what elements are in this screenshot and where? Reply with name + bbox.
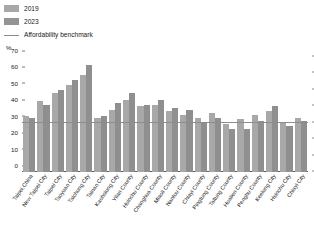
bar-group	[108, 57, 122, 172]
bar-2023	[115, 103, 121, 172]
y-axis-tick: 0	[15, 162, 22, 169]
bar-group	[22, 57, 36, 172]
bar-2023	[186, 110, 192, 172]
bar-2023	[272, 106, 278, 172]
bar-group	[265, 57, 279, 172]
chart-legend: 2019 2023 Affordability benchmark	[4, 3, 93, 42]
bar-2023	[258, 121, 264, 172]
bar-group	[222, 57, 236, 172]
legend-swatch-2019	[4, 5, 19, 12]
legend-item-benchmark: Affordability benchmark	[4, 29, 93, 40]
right-axis-tick-mark	[312, 88, 314, 89]
bar-2023	[286, 126, 292, 172]
plot-area: 010203040506070	[22, 57, 308, 172]
right-axis-tick-mark	[312, 171, 314, 172]
plot-inner: 010203040506070	[22, 57, 308, 172]
legend-item-2019: 2019	[4, 3, 93, 14]
bar-group	[51, 57, 65, 172]
bar-2023	[86, 65, 92, 172]
bar-group	[294, 57, 308, 172]
bar-2023	[172, 108, 178, 172]
bar-2023	[301, 121, 307, 172]
right-axis-tick-mark	[312, 72, 314, 73]
bar-group	[165, 57, 179, 172]
bar-2023	[244, 129, 250, 172]
right-axis-tick-mark	[312, 154, 314, 155]
y-axis-tick: 20	[11, 129, 22, 136]
bar-group	[251, 57, 265, 172]
right-axis-tick-mark	[312, 121, 314, 122]
y-axis-tick-mark	[22, 50, 25, 51]
bar-group	[136, 57, 150, 172]
bar-group	[236, 57, 250, 172]
right-axis-tick-mark	[312, 56, 314, 57]
bar-group	[208, 57, 222, 172]
bar-group	[36, 57, 50, 172]
y-axis-tick: 40	[11, 96, 22, 103]
legend-line-benchmark	[4, 35, 19, 36]
x-axis-labels: Taipei,ChinaNew Taipei CityTaipei CityTa…	[22, 173, 308, 237]
bar-2023	[215, 118, 221, 172]
chart-figure: 2019 2023 Affordability benchmark % 0102…	[0, 0, 314, 239]
bar-2023	[229, 129, 235, 172]
bar-group	[194, 57, 208, 172]
bar-group	[65, 57, 79, 172]
bar-2023	[144, 105, 150, 172]
legend-label-2023: 2023	[24, 18, 39, 25]
bar-2023	[101, 116, 107, 172]
y-axis-tick: 50	[11, 79, 22, 86]
legend-item-2023: 2023	[4, 16, 93, 27]
y-axis-tick: 10	[11, 145, 22, 152]
y-axis-tick: 60	[11, 63, 22, 70]
bar-group	[79, 57, 93, 172]
right-axis-tick-mark	[312, 138, 314, 139]
bar-groups	[22, 57, 308, 172]
right-axis-tick-mark	[312, 105, 314, 106]
bar-2023	[72, 80, 78, 172]
bar-group	[93, 57, 107, 172]
bar-2023	[29, 118, 35, 172]
bar-group	[151, 57, 165, 172]
bar-2023	[129, 93, 135, 172]
bar-group	[122, 57, 136, 172]
legend-swatch-2023	[4, 18, 19, 25]
bar-2023	[201, 123, 207, 172]
y-axis-tick: 30	[11, 112, 22, 119]
bar-group	[279, 57, 293, 172]
bar-2023	[158, 100, 164, 172]
bar-2023	[43, 105, 49, 172]
bar-2023	[58, 90, 64, 172]
y-axis-tick: 70	[11, 47, 22, 54]
benchmark-line	[22, 122, 308, 123]
legend-label-benchmark: Affordability benchmark	[24, 31, 93, 38]
bar-group	[179, 57, 193, 172]
legend-label-2019: 2019	[24, 5, 39, 12]
